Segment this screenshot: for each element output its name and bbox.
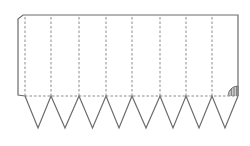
- triangle-tabs: [25, 96, 238, 128]
- glue-hatch-icon: [228, 86, 238, 96]
- fold-lines: [25, 17, 238, 96]
- prism-net-diagram: [0, 0, 250, 146]
